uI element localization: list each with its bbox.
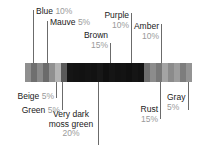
callout-green-name: Green xyxy=(22,105,46,115)
callout-gray-pct: 5% xyxy=(167,103,189,113)
callout-moss: Very dark moss green 20% xyxy=(46,110,96,139)
callout-beige-name: Beige xyxy=(18,91,40,101)
leader-line-rust xyxy=(160,82,161,119)
leader-line-green xyxy=(62,82,63,110)
callout-beige-pct: 5% xyxy=(42,91,54,101)
callout-moss-name: Very dark moss green xyxy=(49,109,93,129)
bar-segment xyxy=(186,63,192,82)
callout-blue-pct: 10% xyxy=(55,6,72,16)
callout-amber: Amber 10% xyxy=(121,22,159,41)
callout-blue-name: Blue xyxy=(36,6,53,16)
callout-mauve-name: Mauve xyxy=(50,17,76,27)
leader-line-blue xyxy=(33,10,34,63)
stacked-proportion-bar xyxy=(25,63,192,82)
callout-mauve: Mauve 5% xyxy=(50,18,90,28)
leader-line-brown xyxy=(110,43,111,63)
callout-beige: Beige 5% xyxy=(10,92,54,102)
callout-rust: Rust 15% xyxy=(122,105,158,124)
callout-moss-pct: 20% xyxy=(62,128,79,138)
callout-brown-pct: 15% xyxy=(66,41,108,51)
callout-gray: Gray 5% xyxy=(167,93,189,112)
leader-line-mauve xyxy=(47,21,48,63)
callout-rust-pct: 15% xyxy=(122,115,158,125)
leader-line-amber xyxy=(161,24,162,63)
leader-line-moss xyxy=(98,82,99,145)
callout-blue: Blue 10% xyxy=(36,7,72,17)
color-proportion-chart: Blue 10% Mauve 5% Brown 15% Purple 10% A… xyxy=(0,0,199,149)
callout-brown: Brown 15% xyxy=(66,31,108,50)
callout-amber-pct: 10% xyxy=(121,32,159,42)
leader-line-beige xyxy=(56,82,57,98)
